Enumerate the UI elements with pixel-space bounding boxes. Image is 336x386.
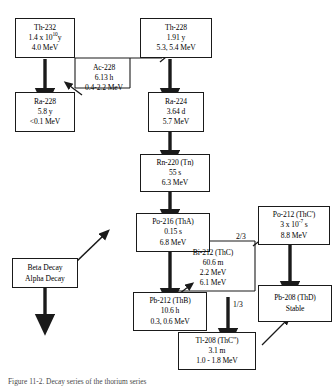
legend-alpha-label: Alpha Decay bbox=[25, 273, 65, 284]
node-ac228-energy: 0.4-2.2 MeV bbox=[85, 83, 123, 93]
arrow-tl208-to-pb208 bbox=[262, 322, 285, 345]
node-bi212-energy-alpha: 6.1 MeV bbox=[200, 278, 226, 288]
node-rn220[interactable]: Rn-220 (Tn) 55 s 6.3 MeV bbox=[140, 154, 210, 192]
node-tl208[interactable]: Tl-208 (ThC") 3.1 m 1.0 - 1.8 MeV bbox=[178, 332, 256, 370]
node-po216-halflife: 0.15 s bbox=[164, 227, 182, 237]
node-rn220-energy: 6.3 MeV bbox=[162, 178, 188, 188]
node-ra224-energy: 5.7 MeV bbox=[163, 117, 189, 127]
node-bi212-energy-beta: 2.2 MeV bbox=[200, 268, 226, 278]
node-bi212-halflife: 60.6 m bbox=[203, 258, 224, 268]
node-pb208-name: Pb-208 (ThD) bbox=[274, 293, 316, 303]
node-ac228-name: Ac-228 bbox=[93, 63, 115, 73]
node-ra228-halflife: 5.8 y bbox=[38, 107, 53, 117]
node-po212-energy: 8.8 MeV bbox=[281, 231, 307, 241]
node-ra224-halflife: 3.64 d bbox=[167, 107, 185, 117]
node-po212[interactable]: Po-212 (ThC') 3 x 10-7 s 8.8 MeV bbox=[258, 206, 330, 245]
node-tl208-halflife: 3.1 m bbox=[209, 346, 226, 356]
node-pb212-energy: 0.3, 0.6 MeV bbox=[150, 317, 189, 327]
legend-box: Beta Decay Alpha Decay bbox=[12, 258, 78, 288]
node-ac228[interactable]: Ac-228 6.13 h 0.4-2.2 MeV bbox=[78, 62, 130, 94]
node-rn220-halflife: 55 s bbox=[169, 168, 181, 178]
node-tl208-name: Tl-208 (ThC") bbox=[196, 336, 239, 346]
node-bi212[interactable]: Bi-212 (ThC) 60.6 m 2.2 MeV 6.1 MeV bbox=[174, 245, 252, 291]
node-pb212-name: Pb-212 (ThB) bbox=[149, 296, 190, 306]
node-rn220-name: Rn-220 (Tn) bbox=[156, 158, 193, 168]
node-th232-energy: 4.0 MeV bbox=[32, 43, 58, 53]
node-ra228[interactable]: Ra-228 5.8 y <0.1 MeV bbox=[15, 92, 75, 132]
node-tl208-energy: 1.0 - 1.8 MeV bbox=[196, 356, 238, 366]
legend-beta-arrow bbox=[76, 236, 103, 262]
node-th228[interactable]: Th-228 1.91 y 5.3, 5.4 MeV bbox=[140, 18, 212, 58]
node-th232-halflife: 1.4 x 1010y bbox=[29, 33, 62, 43]
branch-label-1-3: 1/3 bbox=[233, 300, 243, 309]
node-ra228-name: Ra-228 bbox=[34, 97, 56, 107]
node-pb212[interactable]: Pb-212 (ThB) 10.6 h 0.3, 0.6 MeV bbox=[133, 292, 207, 331]
node-th228-halflife: 1.91 y bbox=[167, 33, 185, 43]
node-th232[interactable]: Th-232 1.4 x 1010y 4.0 MeV bbox=[15, 18, 75, 58]
node-th228-name: Th-228 bbox=[165, 23, 187, 33]
node-po216-name: Po-216 (ThA) bbox=[152, 217, 194, 227]
node-pb208[interactable]: Pb-208 (ThD) Stable bbox=[258, 285, 332, 322]
node-ra224[interactable]: Ra-224 3.64 d 5.7 MeV bbox=[148, 92, 204, 132]
node-pb212-halflife: 10.6 h bbox=[161, 306, 179, 316]
legend-beta-label: Beta Decay bbox=[27, 262, 62, 273]
branch-label-2-3: 2/3 bbox=[236, 232, 246, 241]
node-pb208-status: Stable bbox=[286, 304, 304, 314]
node-ra228-energy: <0.1 MeV bbox=[30, 117, 60, 127]
node-ac228-halflife: 6.13 h bbox=[95, 73, 113, 83]
node-po212-name: Po-212 (ThC') bbox=[273, 210, 315, 220]
node-ra224-name: Ra-224 bbox=[165, 97, 187, 107]
node-bi212-name: Bi-212 (ThC) bbox=[193, 248, 233, 258]
node-th228-energy: 5.3, 5.4 MeV bbox=[156, 43, 195, 53]
thorium-decay-series-diagram: Th-232 1.4 x 1010y 4.0 MeV Th-228 1.91 y… bbox=[0, 0, 336, 386]
node-po212-halflife: 3 x 10-7 s bbox=[280, 220, 307, 230]
